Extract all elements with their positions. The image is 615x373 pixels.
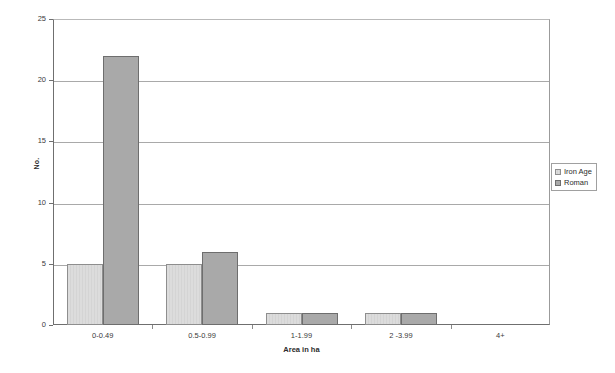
- gridline: [54, 142, 549, 143]
- y-axis-title: No.: [33, 144, 40, 184]
- y-tick-mark: [49, 325, 53, 326]
- x-tick-mark: [351, 325, 352, 329]
- legend-label-roman: Roman: [564, 178, 588, 187]
- chart-legend: Iron Age Roman: [551, 163, 597, 191]
- y-tick-label: 10: [24, 199, 46, 207]
- y-tick-label: 5: [24, 260, 46, 268]
- x-tick-mark: [152, 325, 153, 329]
- legend-swatch-roman-icon: [555, 180, 561, 186]
- plot-area: [53, 19, 550, 325]
- y-tick-label: 20: [24, 76, 46, 84]
- gridline: [54, 204, 549, 205]
- bar-chart: No. 0510152025 0-0.490.5-0.991-1.992 -3.…: [0, 0, 615, 373]
- gridline: [54, 265, 549, 266]
- y-tick-label: 0: [24, 321, 46, 329]
- legend-swatch-iron-age-icon: [555, 169, 561, 175]
- x-tick-label: 2 -3.99: [351, 331, 450, 340]
- x-tick-label: 4+: [451, 331, 550, 340]
- x-tick-mark: [252, 325, 253, 329]
- x-tick-label: 0.5-0.99: [152, 331, 251, 340]
- legend-item-roman: Roman: [555, 178, 592, 187]
- legend-item-iron-age: Iron Age: [555, 167, 592, 176]
- legend-label-iron-age: Iron Age: [564, 167, 592, 176]
- x-tick-label: 0-0.49: [53, 331, 152, 340]
- gridline: [54, 81, 549, 82]
- x-tick-label: 1-1.99: [252, 331, 351, 340]
- y-tick-label: 25: [24, 15, 46, 23]
- y-tick-label: 15: [24, 137, 46, 145]
- x-tick-mark: [451, 325, 452, 329]
- x-axis-title: Area in ha: [53, 345, 550, 354]
